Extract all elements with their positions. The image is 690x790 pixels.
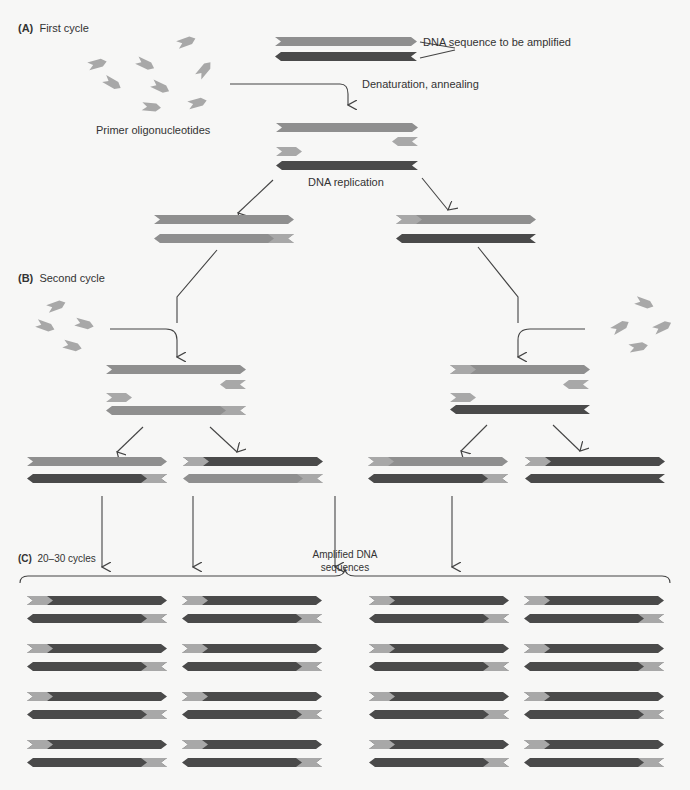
primer-icon [135, 57, 156, 72]
dna-strand-reverse [563, 380, 589, 389]
primer-icon [46, 299, 67, 313]
primer-icon [74, 318, 94, 331]
arrow [210, 427, 237, 452]
section-c-label: (C) 20–30 cycles [18, 553, 96, 564]
primer-icon [87, 58, 107, 71]
arrow [117, 427, 143, 452]
arrow [461, 425, 487, 451]
primer-icon [102, 75, 122, 91]
dna-strand-forward [106, 365, 246, 374]
arrow [422, 178, 448, 210]
primers-label: Primer oligonucleotides [96, 124, 210, 136]
dna-strand-reverse [525, 474, 665, 483]
arrow [553, 425, 580, 451]
dna-strand-reverse [276, 161, 418, 170]
dna-strand-reverse [220, 380, 246, 389]
primer-icon [610, 319, 630, 335]
arrow [518, 329, 585, 357]
primer-icon [628, 341, 648, 352]
primer-icon [634, 296, 655, 310]
pcr-diagram [0, 0, 690, 790]
replication-label: DNA replication [308, 176, 384, 188]
section-c-tag: (C) [18, 553, 32, 564]
dna-strand-forward [106, 393, 132, 402]
arrow [238, 180, 273, 213]
amplified-label: Amplified DNA sequences [300, 548, 390, 574]
primer-icon [176, 35, 197, 49]
dna-strand-forward [276, 123, 418, 132]
primer-icon [35, 319, 56, 333]
dna-strand-reverse [450, 405, 590, 414]
dna-strand-forward [276, 147, 302, 156]
primer-icon [187, 97, 207, 110]
denaturation-label: Denaturation, annealing [362, 78, 479, 90]
primer-icon [195, 60, 213, 80]
connector-line [478, 247, 518, 323]
section-c-title: 20–30 cycles [37, 553, 95, 564]
dna-strand-reverse [275, 52, 417, 61]
section-b-tag: (B) [18, 272, 33, 284]
primer-icon [62, 340, 82, 353]
dna-target-label: DNA sequence to be amplified [423, 36, 571, 48]
arrow [110, 329, 177, 357]
dna-strand-forward [154, 215, 294, 224]
arrow [230, 84, 348, 105]
dna-strand-reverse [396, 234, 536, 243]
dna-strand-forward [27, 457, 167, 466]
connector-line [177, 250, 217, 323]
primer-icon [142, 102, 162, 112]
section-a-tag: (A) [18, 22, 33, 34]
primer-icon [652, 319, 673, 334]
dna-strand-reverse [392, 137, 418, 146]
section-a-label: (A) First cycle [18, 22, 89, 34]
section-b-label: (B) Second cycle [18, 272, 105, 284]
primer-icon [150, 80, 171, 95]
connector-line [420, 50, 455, 58]
section-b-title: Second cycle [39, 272, 104, 284]
dna-strand-forward [450, 393, 476, 402]
section-a-title: First cycle [39, 22, 89, 34]
dna-strand-forward [275, 37, 417, 46]
